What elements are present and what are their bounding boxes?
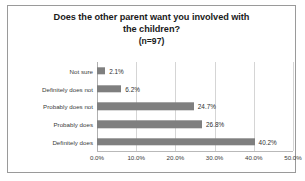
chart-subtitle-sample-size: (n=97)	[8, 35, 295, 48]
bar	[97, 121, 202, 128]
bar-row: Not sure2.1%	[97, 62, 293, 80]
x-axis-line	[97, 151, 293, 152]
bar-row: Definitely does40.2%	[97, 133, 293, 151]
chart-container: Does the other parent want you involved …	[7, 5, 296, 173]
category-label: Definitely does	[52, 139, 93, 146]
bar	[97, 67, 105, 74]
category-label: Not sure	[70, 67, 93, 74]
bar-value-label: 2.1%	[109, 67, 124, 74]
x-tick-label: 50.0%	[284, 154, 302, 161]
x-tick-label: 10.0%	[127, 154, 145, 161]
x-tick-label: 40.0%	[245, 154, 263, 161]
bar	[97, 85, 121, 92]
bar-value-label: 26.8%	[206, 121, 224, 128]
bar-row: Probably does not24.7%	[97, 98, 293, 116]
bar	[97, 138, 255, 145]
x-tick-label: 20.0%	[167, 154, 185, 161]
category-label: Probably does not	[43, 103, 93, 110]
category-label: Probably does	[53, 121, 93, 128]
chart-title-block: Does the other parent want you involved …	[8, 11, 295, 48]
bar	[97, 103, 194, 110]
plot-area: Not sure2.1%Definitely does not6.2%Proba…	[97, 62, 293, 151]
x-tick-label: 30.0%	[206, 154, 224, 161]
x-tick-label: 0.0%	[90, 154, 104, 161]
bar-value-label: 40.2%	[259, 139, 277, 146]
category-label: Definitely does not	[42, 85, 93, 92]
chart-title-line-1: Does the other parent want you involved …	[8, 11, 295, 23]
gridline-500pct	[293, 62, 294, 151]
chart-title-line-2: the children?	[8, 23, 295, 35]
bar-row: Definitely does not6.2%	[97, 80, 293, 98]
bar-row: Probably does26.8%	[97, 115, 293, 133]
bar-value-label: 6.2%	[125, 85, 140, 92]
bar-value-label: 24.7%	[198, 103, 216, 110]
